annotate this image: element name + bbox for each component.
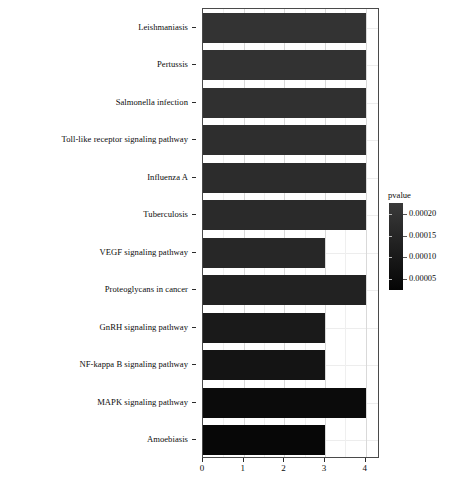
bar	[203, 388, 366, 418]
legend-tick-label: 0.00010	[409, 252, 436, 262]
y-axis-tick-label: NF-kappa B signaling pathway	[0, 358, 190, 370]
y-axis-tick-label: Toll-like receptor signaling pathway	[0, 133, 190, 145]
legend: pvalue 0.000200.000150.000100.00005	[388, 190, 452, 302]
legend-tick-label: 0.00020	[409, 209, 436, 219]
bar	[203, 238, 325, 268]
bar	[203, 313, 325, 343]
x-axis-tick-mark	[283, 458, 284, 462]
x-axis-tick-mark	[202, 458, 203, 462]
y-axis-tick-label: Salmonella infection	[0, 96, 190, 108]
legend-colorbar	[389, 203, 403, 290]
y-axis-tick-mark	[192, 27, 196, 28]
legend-tick-mark	[403, 236, 407, 237]
gridline-major	[366, 9, 367, 457]
y-axis-tick-mark	[192, 139, 196, 140]
legend-tick-mark	[403, 257, 407, 258]
y-axis-label-text: Influenza A	[147, 172, 188, 182]
x-axis-tick-label: 1	[233, 463, 253, 474]
x-axis-tick-mark	[243, 458, 244, 462]
y-axis-tick-label: Tuberculosis	[0, 208, 190, 220]
y-axis-label-text: MAPK signaling pathway	[97, 397, 188, 407]
x-axis-tick-mark	[324, 458, 325, 462]
y-axis-label-text: GnRH signaling pathway	[100, 322, 188, 332]
legend-title: pvalue	[388, 190, 411, 200]
bar	[203, 13, 366, 43]
y-axis-tick-mark	[192, 402, 196, 403]
y-axis-label-text: Salmonella infection	[116, 97, 188, 107]
legend-tick-mark	[403, 214, 407, 215]
y-axis-tick-mark	[192, 364, 196, 365]
y-axis-tick-mark	[192, 177, 196, 178]
bar	[203, 88, 366, 118]
x-axis-tick-label: 3	[314, 463, 334, 474]
y-axis-tick-label: Amoebiasis	[0, 433, 190, 445]
kegg-pathway-barchart: LeishmaniasisPertussisSalmonella infecti…	[0, 0, 452, 493]
x-axis-tick-label: 4	[355, 463, 375, 474]
bar	[203, 350, 325, 380]
y-axis-tick-label: MAPK signaling pathway	[0, 396, 190, 408]
bar	[203, 200, 366, 230]
legend-tick-inner-mark	[389, 257, 392, 258]
legend-tick-inner-mark	[389, 279, 392, 280]
y-axis-label-text: Tuberculosis	[143, 209, 188, 219]
y-axis-tick-mark	[192, 102, 196, 103]
y-axis-tick-mark	[192, 64, 196, 65]
y-axis-tick-label: Leishmaniasis	[0, 21, 190, 33]
legend-tick-label: 0.00005	[409, 274, 436, 284]
x-axis-tick-label: 2	[273, 463, 293, 474]
y-axis-label-text: NF-kappa B signaling pathway	[79, 359, 188, 369]
y-axis-tick-mark	[192, 327, 196, 328]
legend-tick-label: 0.00015	[409, 231, 436, 241]
y-axis-tick-mark	[192, 439, 196, 440]
x-axis: 01234	[202, 458, 379, 488]
x-axis-tick-label: 0	[192, 463, 212, 474]
y-axis-label-text: Amoebiasis	[147, 434, 188, 444]
bar	[203, 275, 366, 305]
y-axis-tick-label: GnRH signaling pathway	[0, 321, 190, 333]
y-axis-tick-label: Pertussis	[0, 58, 190, 70]
y-axis-tick-label: Proteoglycans in cancer	[0, 283, 190, 295]
y-axis-label-text: Proteoglycans in cancer	[105, 284, 188, 294]
y-axis-label-text: Pertussis	[157, 59, 188, 69]
y-axis-tick-label: VEGF signaling pathway	[0, 246, 190, 258]
bar	[203, 163, 366, 193]
y-axis-label-text: Leishmaniasis	[138, 22, 188, 32]
y-axis-label-text: Toll-like receptor signaling pathway	[62, 134, 188, 144]
y-axis: LeishmaniasisPertussisSalmonella infecti…	[0, 8, 196, 458]
y-axis-tick-mark	[192, 252, 196, 253]
y-axis-tick-mark	[192, 214, 196, 215]
bar	[203, 425, 325, 455]
y-axis-tick-label: Influenza A	[0, 171, 190, 183]
bar	[203, 125, 366, 155]
legend-tick-mark	[403, 279, 407, 280]
x-axis-tick-mark	[365, 458, 366, 462]
bar	[203, 50, 366, 80]
legend-tick-inner-mark	[389, 236, 392, 237]
legend-tick-inner-mark	[389, 214, 392, 215]
plot-panel	[202, 8, 379, 458]
y-axis-tick-mark	[192, 289, 196, 290]
y-axis-label-text: VEGF signaling pathway	[100, 247, 188, 257]
